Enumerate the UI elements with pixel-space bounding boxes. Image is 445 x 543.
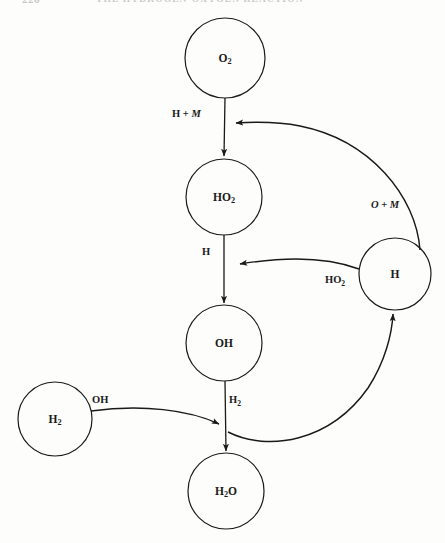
edges-group	[91, 98, 420, 451]
node-label-o2: O2	[218, 52, 231, 66]
edge-label-h2: H2	[229, 394, 241, 408]
reaction-diagram: O2 HO2 OH H2O H H2 H + M H H2	[0, 0, 445, 543]
node-label-ho2-text: HO	[213, 191, 231, 203]
edge-o2-to-ho2	[224, 98, 225, 156]
edge-label-h-plus-m: H + M	[172, 108, 201, 119]
node-label-oh: OH	[215, 337, 233, 349]
edge-labels-group: H + M H H2 O + M HO2 OH	[92, 108, 400, 408]
edge-label-oh: OH	[92, 394, 108, 405]
edge-oh-to-h2o	[225, 381, 226, 451]
node-label-oh-text: OH	[215, 337, 233, 349]
figure-page: 226 THE HYDROGEN-OXYGEN REACTION	[0, 0, 445, 543]
edge-h-to-o2-trunk	[236, 122, 420, 250]
node-label-h2: H2	[48, 413, 61, 427]
node-label-h2o-text: H	[215, 485, 224, 497]
node-label-h2o: H2O	[215, 485, 237, 499]
node-label-h2-text: H	[48, 413, 57, 425]
node-label-h: H	[391, 268, 400, 280]
edge-label-ho2: HO2	[325, 274, 345, 288]
edge-label-h: H	[202, 246, 210, 257]
node-label-o2-text: O	[218, 52, 227, 64]
edge-h2o-trunk-to-h	[228, 314, 393, 442]
edge-h2-to-h2o-trunk	[91, 408, 219, 424]
node-label-h-text: H	[391, 268, 400, 280]
edge-label-o-plus-m: O + M	[371, 199, 400, 210]
edge-h-to-ho2-trunk	[240, 259, 359, 269]
node-label-ho2: HO2	[213, 191, 235, 205]
